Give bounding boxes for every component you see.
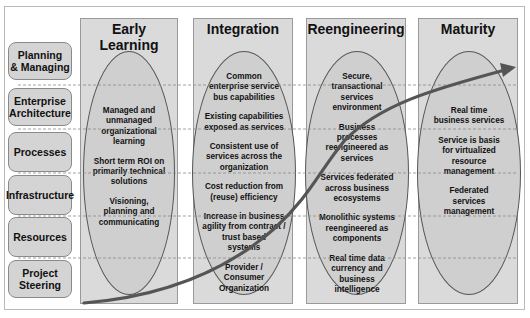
ellipse: Managed and unmanaged organizational lea… xyxy=(83,51,175,295)
column-title: Early Learning xyxy=(81,21,177,53)
ellipse: Common enterprise service bus capabiliti… xyxy=(192,51,296,295)
ellipse-item: Existing capabilities exposed as service… xyxy=(193,112,295,133)
ellipse-item: Consistent use of services across the or… xyxy=(193,142,295,173)
column-integration: Integration Common enterprise service bu… xyxy=(193,18,293,304)
row-label-enterprise-architecture: Enterprise Architecture xyxy=(8,88,72,126)
row-label-planning-managing: Planning & Managing xyxy=(8,42,72,80)
ellipse-item: Managed and unmanaged organizational lea… xyxy=(84,106,174,148)
column-maturity: Maturity Real time business services Ser… xyxy=(418,18,518,304)
ellipse-item: Monolithic systems reengineered as compo… xyxy=(306,213,408,244)
ellipse-items: Real time business services Service is b… xyxy=(418,106,520,227)
ellipse-item: Visioning, planning and communicating xyxy=(84,197,174,228)
ellipse-item: Service is basis for virtualized resourc… xyxy=(418,136,520,178)
ellipse-item: Secure, transactional services environme… xyxy=(306,72,408,114)
ellipse: Secure, transactional services environme… xyxy=(305,51,409,295)
column-reengineering: Reengineering Secure, transactional serv… xyxy=(306,18,406,304)
ellipse-item: Services federated across business ecosy… xyxy=(306,173,408,204)
row-label-project-steering: Project Steering xyxy=(8,260,72,298)
ellipse-items: Common enterprise service bus capabiliti… xyxy=(193,72,295,303)
ellipse-item: Cost reduction from (reuse) efficiency xyxy=(193,182,295,203)
row-label-processes: Processes xyxy=(8,132,72,172)
ellipse-item: Common enterprise service bus capabiliti… xyxy=(193,72,295,103)
ellipse-items: Secure, transactional services environme… xyxy=(306,72,408,304)
ellipse-item: Real time business services xyxy=(418,106,520,127)
column-title: Maturity xyxy=(419,21,517,37)
ellipse-item: Increase in business agility from contra… xyxy=(193,212,295,254)
column-title: Reengineering xyxy=(307,21,405,37)
ellipse: Real time business services Service is b… xyxy=(417,51,521,295)
ellipse-item: Federated services management xyxy=(418,186,520,217)
ellipse-item: Business processes reengineered as servi… xyxy=(306,123,408,165)
ellipse-item: Short term ROI on primarily technical so… xyxy=(84,157,174,188)
row-label-infrastructure: Infrastructure xyxy=(8,175,72,215)
ellipse-item: Real time data currency and business int… xyxy=(306,254,408,296)
row-label-resources: Resources xyxy=(8,217,72,257)
column-early-learning: Early Learning Managed and unmanaged org… xyxy=(80,18,178,304)
ellipse-items: Managed and unmanaged organizational lea… xyxy=(84,106,174,237)
ellipse-item: Provider / Consumer Organization xyxy=(193,263,295,294)
column-title: Integration xyxy=(194,21,292,37)
